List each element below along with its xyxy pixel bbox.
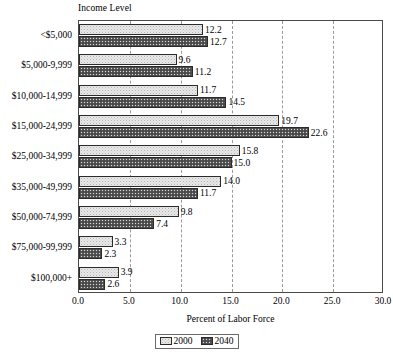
bar-row: 9.611.2 <box>79 51 382 81</box>
bar-2000[interactable]: 15.8 <box>79 145 240 156</box>
bar-row: 14.011.7 <box>79 173 382 203</box>
bar-value-label: 2.6 <box>107 279 119 289</box>
bar-rect: 11.2 <box>79 66 193 77</box>
category-label: $25,000-34,999 <box>12 141 72 171</box>
bar-2000[interactable]: 3.3 <box>79 236 113 247</box>
bar-row: 11.714.5 <box>79 82 382 112</box>
x-axis-tick-labels: 0.05.010.015.020.025.030.0 <box>78 296 383 310</box>
bar-2040[interactable]: 11.2 <box>79 66 193 77</box>
bar-row: 15.815.0 <box>79 142 382 172</box>
x-axis-title: Percent of Labor Force <box>78 314 383 324</box>
bar-rect: 3.9 <box>79 267 119 278</box>
plot-area: 12.212.79.611.211.714.519.722.615.815.01… <box>78 20 383 293</box>
bar-rect: 12.7 <box>79 36 208 47</box>
bar-rect: 9.8 <box>79 206 179 217</box>
bar-rect: 14.0 <box>79 176 221 187</box>
category-label: $5,000-9,999 <box>21 50 72 80</box>
legend-swatch-2000 <box>160 337 172 345</box>
bar-row: 9.87.4 <box>79 203 382 233</box>
bar-value-label: 3.9 <box>121 267 133 277</box>
category-axis-labels: <$5,000$5,000-9,999$10,000-14,999$15,000… <box>0 20 75 293</box>
x-tick-label: 15.0 <box>222 296 239 306</box>
bar-row: 3.92.6 <box>79 264 382 294</box>
bar-rect: 12.2 <box>79 24 203 35</box>
bar-rect: 2.6 <box>79 279 105 290</box>
bar-2040[interactable]: 15.0 <box>79 157 232 168</box>
bar-value-label: 15.8 <box>242 146 259 156</box>
bar-rect: 14.5 <box>79 97 226 108</box>
x-tick-label: 0.0 <box>72 296 84 306</box>
bar-rect: 15.0 <box>79 157 232 168</box>
bar-2000[interactable]: 11.7 <box>79 85 198 96</box>
bar-row: 3.32.3 <box>79 233 382 263</box>
legend-label: 2000 <box>174 336 193 346</box>
bar-rect: 11.7 <box>79 188 198 199</box>
chart-legend: 20002040 <box>155 334 239 349</box>
bar-rect: 11.7 <box>79 85 198 96</box>
bar-value-label: 12.2 <box>205 25 222 35</box>
bar-value-label: 9.6 <box>179 55 191 65</box>
bar-rect: 15.8 <box>79 145 240 156</box>
bar-2000[interactable]: 14.0 <box>79 176 221 187</box>
bar-value-label: 3.3 <box>115 237 127 247</box>
bar-rect: 7.4 <box>79 218 154 229</box>
category-label: $10,000-14,999 <box>12 81 72 111</box>
x-tick-label: 20.0 <box>273 296 290 306</box>
bar-2040[interactable]: 7.4 <box>79 218 154 229</box>
bar-value-label: 11.7 <box>200 85 216 95</box>
bar-value-label: 14.5 <box>228 97 245 107</box>
bar-2000[interactable]: 12.2 <box>79 24 203 35</box>
bar-rect: 2.3 <box>79 248 102 259</box>
bar-chart-figure: Income Level 12.212.79.611.211.714.519.7… <box>0 0 393 352</box>
bar-rect: 22.6 <box>79 127 309 138</box>
bar-rect: 3.3 <box>79 236 113 247</box>
bar-row: 19.722.6 <box>79 112 382 142</box>
bar-value-label: 11.7 <box>200 188 216 198</box>
bar-2000[interactable]: 3.9 <box>79 267 119 278</box>
x-tick-label: 25.0 <box>324 296 341 306</box>
bar-2040[interactable]: 11.7 <box>79 188 198 199</box>
bar-value-label: 2.3 <box>104 249 116 259</box>
bar-value-label: 22.6 <box>311 128 328 138</box>
category-label: <$5,000 <box>41 20 72 50</box>
bar-2000[interactable]: 9.8 <box>79 206 179 217</box>
bar-row: 12.212.7 <box>79 21 382 51</box>
category-label: $75,000-99,999 <box>12 232 72 262</box>
legend-swatch-2040 <box>201 337 213 345</box>
bar-2040[interactable]: 2.3 <box>79 248 102 259</box>
bar-rect: 19.7 <box>79 115 279 126</box>
bar-value-label: 11.2 <box>195 67 211 77</box>
bar-rows: 12.212.79.611.211.714.519.722.615.815.01… <box>79 21 382 292</box>
plot-title: Income Level <box>78 3 132 13</box>
bar-2040[interactable]: 14.5 <box>79 97 226 108</box>
category-label: $100,000+ <box>31 263 72 293</box>
x-tick-label: 5.0 <box>123 296 135 306</box>
bar-value-label: 12.7 <box>210 37 227 47</box>
bar-2040[interactable]: 2.6 <box>79 279 105 290</box>
bar-value-label: 9.8 <box>181 207 193 217</box>
x-tick-label: 10.0 <box>171 296 188 306</box>
bar-2040[interactable]: 12.7 <box>79 36 208 47</box>
x-tick-label: 30.0 <box>375 296 392 306</box>
category-label: $50,000-74,999 <box>12 202 72 232</box>
bar-value-label: 7.4 <box>156 219 168 229</box>
category-label: $35,000-49,999 <box>12 172 72 202</box>
bar-rect: 9.6 <box>79 54 177 65</box>
legend-item-2040[interactable]: 2040 <box>201 336 234 346</box>
bar-value-label: 15.0 <box>234 158 251 168</box>
category-label: $15,000-24,999 <box>12 111 72 141</box>
bar-value-label: 19.7 <box>281 116 298 126</box>
bar-value-label: 14.0 <box>223 176 240 186</box>
legend-label: 2040 <box>215 336 234 346</box>
legend-item-2000[interactable]: 2000 <box>160 336 193 346</box>
bar-2000[interactable]: 9.6 <box>79 54 177 65</box>
bar-2040[interactable]: 22.6 <box>79 127 309 138</box>
bar-2000[interactable]: 19.7 <box>79 115 279 126</box>
